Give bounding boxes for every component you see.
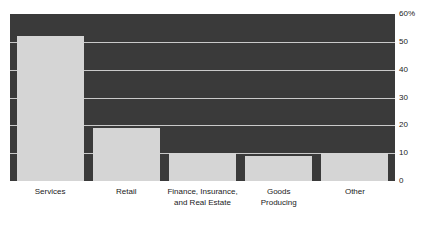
bar-slot [88,14,164,181]
x-tick-label: Retail [88,186,164,197]
y-tick-label: 30 [399,94,408,102]
x-tick-label: Services [12,186,88,197]
bar[interactable] [17,36,84,181]
x-tick-label: Finance, Insurance, and Real Estate [164,186,240,208]
y-axis: 0102030405060% [399,14,429,181]
bars-container [10,14,395,181]
x-tick-label: Goods Producing [241,186,317,208]
y-tick-label: 50 [399,38,408,46]
bar-chart-figure: 0102030405060% ServicesRetailFinance, In… [0,0,429,225]
x-tick-label: Other [317,186,393,197]
x-category: Other [317,186,393,222]
bar-slot [241,14,317,181]
y-tick-label: 10 [399,149,408,157]
y-tick-label: 0 [399,177,403,185]
x-category: Finance, Insurance, and Real Estate [164,186,240,222]
x-category: Retail [88,186,164,222]
bar[interactable] [93,128,160,181]
bar[interactable] [321,153,388,181]
bar-slot [317,14,393,181]
bar-slot [12,14,88,181]
y-tick-label: 20 [399,121,408,129]
x-category: Goods Producing [241,186,317,222]
bar[interactable] [245,156,312,181]
bar-slot [164,14,240,181]
x-axis: ServicesRetailFinance, Insurance, and Re… [10,186,395,222]
y-tick-label: 40 [399,66,408,74]
chart-title-remnant [0,0,429,12]
x-category: Services [12,186,88,222]
y-tick-label: 60% [399,10,415,18]
bar[interactable] [169,153,236,181]
plot-area [10,14,395,181]
